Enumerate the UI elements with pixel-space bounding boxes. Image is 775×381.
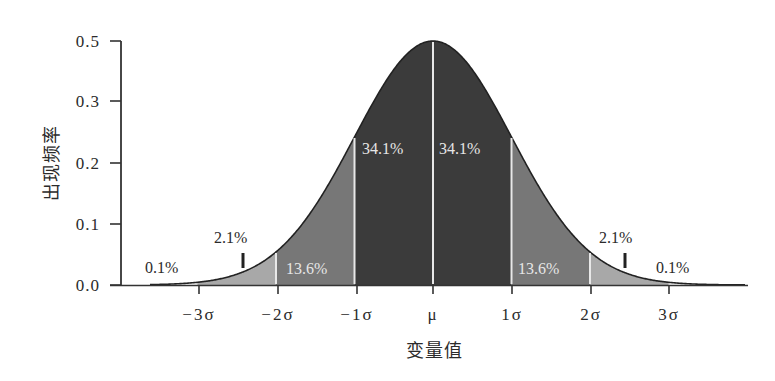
label-left-center: 34.1% — [362, 140, 403, 157]
label-right-tail: 0.1% — [656, 259, 689, 276]
y-axis-title: 出现频率 — [42, 125, 62, 201]
label-left-1sd: 13.6% — [286, 260, 327, 277]
region-2 — [355, 41, 434, 285]
y-tick-label: 0.0 — [76, 276, 100, 295]
x-tick-label: 2σ — [580, 305, 602, 324]
x-tick-label: −1σ — [340, 305, 373, 324]
y-tick-label: 0.2 — [76, 154, 100, 173]
y-tick-label: 0.5 — [76, 32, 100, 51]
x-tick-label: μ — [427, 305, 438, 324]
x-tick-label: 1σ — [501, 305, 523, 324]
label-left-tail: 0.1% — [145, 259, 178, 276]
x-tick-label: −3σ — [182, 305, 215, 324]
label-right-center: 34.1% — [439, 140, 480, 157]
label-left-2sd: 2.1% — [214, 229, 247, 246]
y-axis: 0.50.30.20.10.0 — [76, 32, 121, 295]
label-right-2sd: 2.1% — [599, 229, 632, 246]
x-tick-label: 3σ — [658, 305, 680, 324]
y-tick-label: 0.1 — [76, 215, 100, 234]
x-axis: −3σ−2σ−1σμ1σ2σ3σ — [110, 285, 748, 324]
label-right-1sd: 13.6% — [518, 260, 559, 277]
x-tick-label: −2σ — [261, 305, 294, 324]
x-axis-title: 变量值 — [406, 341, 463, 361]
y-tick-label: 0.3 — [76, 92, 100, 111]
normal-distribution-chart: 0.50.30.20.10.0 −3σ−2σ−1σμ1σ2σ3σ 出现频率 变量… — [0, 0, 775, 381]
region-3 — [433, 41, 512, 285]
